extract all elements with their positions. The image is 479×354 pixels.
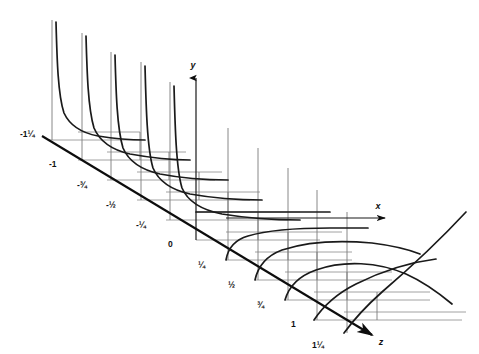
z-tick-label: -1¼ — [20, 129, 36, 139]
z-axis-label: z — [378, 337, 384, 347]
z-tick-label: 0 — [168, 239, 173, 249]
curve-z-1-25 — [344, 212, 466, 333]
z-tick-label: -¼ — [136, 220, 147, 230]
z-axis-group — [42, 136, 372, 335]
z-tick-label: ¾ — [257, 300, 265, 310]
three-d-plot-svg: -1¼ -1 -¾ -½ -¼ 0 ¼ ½ ¾ 1 1¼ y x z — [0, 0, 479, 354]
z-tick-labels-group: -1¼ -1 -¾ -½ -¼ 0 ¼ ½ ¾ 1 1¼ — [20, 129, 325, 350]
z-tick-label: 1¼ — [312, 340, 325, 350]
slice-vertical-lines-group — [52, 20, 377, 333]
axis-name-labels-group: y x z — [189, 60, 383, 347]
curves-positive-group — [226, 212, 466, 333]
z-tick-label: ½ — [228, 280, 235, 290]
z-tick-label: -¾ — [77, 180, 88, 190]
curves-negative-group — [56, 22, 300, 220]
z-tick-label: ¼ — [198, 260, 206, 270]
curve-z-neg-0-75 — [115, 55, 228, 180]
z-tick-label: 1 — [291, 319, 296, 329]
x-axis-label: x — [374, 201, 381, 211]
y-axis-label: y — [189, 60, 196, 70]
z-tick-label: -½ — [106, 200, 116, 210]
curve-z-neg-1-25 — [56, 22, 145, 140]
curve-z-0-5 — [255, 242, 420, 280]
z-tick-label: -1 — [49, 159, 57, 169]
z-axis-line — [42, 136, 372, 335]
figure-root: -1¼ -1 -¾ -½ -¼ 0 ¼ ½ ¾ 1 1¼ y x z — [0, 0, 479, 354]
